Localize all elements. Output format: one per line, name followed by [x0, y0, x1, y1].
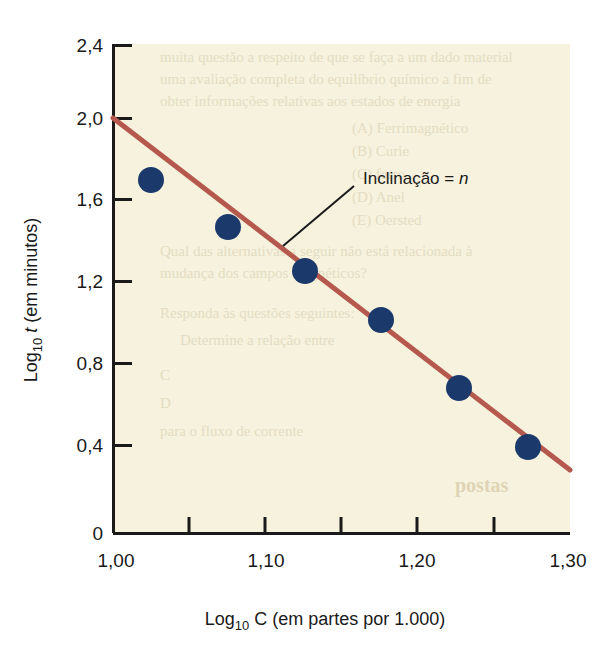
x-axis-title: Log10 C (em partes por 1.000)	[205, 609, 446, 633]
x-axis-title-subscript: 10	[235, 618, 249, 633]
y-tick-label: 2,0	[77, 108, 103, 129]
data-point	[368, 307, 394, 333]
log-log-scatter-chart: muita questão a respeito de que se faça …	[0, 0, 616, 647]
showthrough-line: mudança dos campos magnéticos?	[160, 265, 367, 281]
y-axis-title-prefix: Log	[21, 352, 41, 382]
y-axis-title-suffix: (em minutos)	[21, 218, 41, 323]
showthrough-line: muita questão a respeito de que se faça …	[160, 49, 513, 65]
x-tick-label: 1,10	[248, 550, 285, 571]
showthrough-line: Responda às questões seguintes:	[160, 305, 355, 321]
x-tick-label: 1,20	[399, 550, 436, 571]
showthrough-line: para o fluxo de corrente	[160, 423, 304, 439]
showthrough-line: Determine a relação entre	[180, 332, 335, 348]
annotation-label-prefix: Inclinação =	[363, 169, 459, 188]
y-axis-title-subscript: 10	[30, 338, 45, 352]
y-tick-label: 0,8	[77, 353, 103, 374]
annotation-label-symbol: n	[459, 169, 468, 188]
showthrough-line: (B) Curie	[352, 143, 409, 160]
showthrough-line: obter informações relativas aos estados …	[160, 93, 461, 109]
y-tick-label: 1,2	[77, 271, 103, 292]
x-axis-title-prefix: Log	[205, 609, 235, 629]
figure-container: muita questão a respeito de que se faça …	[0, 0, 616, 647]
data-point	[292, 258, 318, 284]
data-point	[446, 375, 472, 401]
x-axis-title-variable: C	[254, 609, 267, 629]
x-axis-tick-labels: 1,00 1,10 1,20 1,30	[98, 550, 587, 571]
showthrough-line: (D) Anel	[352, 189, 405, 206]
showthrough-line: D	[160, 395, 171, 411]
plot-background	[113, 44, 570, 533]
x-tick-label: 1,30	[550, 550, 587, 571]
showthrough-line: (A) Ferrimagnético	[352, 120, 468, 137]
showthrough-line: postas	[455, 474, 509, 497]
y-tick-label: 2,4	[77, 35, 104, 56]
annotation-label: Inclinação = n	[363, 169, 468, 188]
showthrough-line: (E) Oersted	[352, 212, 422, 229]
y-tick-label: 0,4	[77, 435, 104, 456]
data-point	[215, 214, 241, 240]
data-point	[515, 434, 541, 460]
x-axis-title-suffix: (em partes por 1.000)	[272, 609, 445, 629]
y-axis-title: Log10 t (em minutos)	[21, 218, 45, 383]
showthrough-line: uma avaliação completa do equilíbrio quí…	[160, 71, 492, 87]
y-tick-label: 0	[92, 523, 103, 544]
showthrough-line: Qual das alternativas a seguir não está …	[160, 243, 473, 259]
data-point	[138, 167, 164, 193]
y-tick-label: 1,6	[77, 189, 103, 210]
x-tick-label: 1,00	[98, 550, 135, 571]
y-axis-tick-labels: 2,4 2,0 1,6 1,2 0,8 0,4 0	[77, 35, 104, 544]
showthrough-line: C	[160, 367, 170, 383]
